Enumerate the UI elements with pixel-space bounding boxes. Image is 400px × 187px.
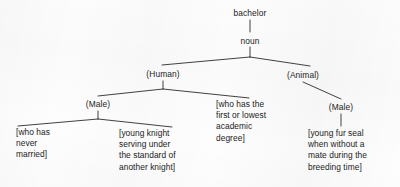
edge-human-male-to-young-knight bbox=[98, 119, 172, 127]
edge-human-to-male bbox=[98, 89, 163, 96]
node-feature-human: (Human) bbox=[146, 69, 179, 79]
node-feature-male-animal: (Male) bbox=[329, 102, 353, 112]
edge-pos-to-animal bbox=[250, 57, 310, 66]
edge-human-male-to-never-married bbox=[18, 119, 98, 126]
leaf-gloss-never-married: [who has never married] bbox=[16, 127, 50, 161]
edge-human-to-academic-degree bbox=[163, 89, 249, 98]
leaf-gloss-academic-degree: [who has the first or lowest academic de… bbox=[216, 99, 266, 144]
leaf-gloss-fur-seal: [young fur seal when without a mate duri… bbox=[308, 128, 367, 173]
node-feature-animal: (Animal) bbox=[287, 70, 319, 80]
edge-animal-to-male bbox=[303, 82, 341, 99]
node-feature-male-human: (Male) bbox=[86, 99, 110, 109]
leaf-gloss-young-knight: [young knight serving under the standard… bbox=[119, 128, 176, 173]
node-root-bachelor: bachelor bbox=[234, 8, 267, 18]
semantic-tree-diagram: bachelor noun (Human) (Animal) (Male) (M… bbox=[0, 0, 400, 187]
node-pos-noun: noun bbox=[240, 36, 259, 46]
edge-pos-to-human bbox=[162, 57, 250, 65]
